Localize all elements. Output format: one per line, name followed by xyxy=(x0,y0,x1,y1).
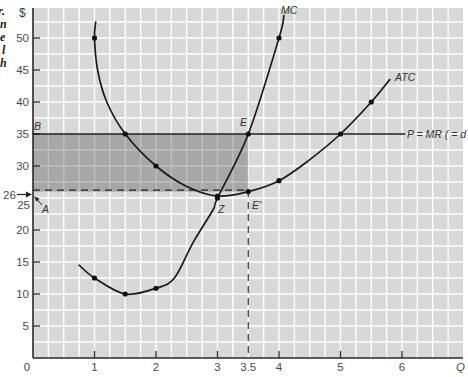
y-tick-label: 10 xyxy=(16,288,29,300)
mc-curve-point xyxy=(276,35,281,40)
atc-curve-point xyxy=(92,35,97,40)
atc-curve-label: ATC xyxy=(394,71,416,83)
price-line-label: P = MR ( = d xyxy=(407,128,467,140)
x-tick-label: 3.5 xyxy=(240,361,256,373)
caption-fragment: e xyxy=(0,30,6,44)
x-tick-label: 1 xyxy=(91,361,97,373)
y-axis-unit-label: $ xyxy=(19,6,26,20)
mc-curve-point xyxy=(92,275,97,280)
x-tick-label: 3 xyxy=(214,361,220,373)
atc-curve-point xyxy=(153,163,158,168)
x-tick-label: 6 xyxy=(399,361,405,373)
atc-curve-point xyxy=(246,189,251,194)
x-tick-label: 4 xyxy=(276,361,283,373)
y-tick-label: 50 xyxy=(16,32,29,44)
y-tick-label: 20 xyxy=(16,224,29,236)
point-e-prime-label: E' xyxy=(252,199,262,211)
caption-fragment: r. xyxy=(0,4,5,18)
clipped-caption-text: r. n e l h xyxy=(0,4,7,70)
caption-fragment: l xyxy=(2,43,6,57)
profit-rectangle xyxy=(33,134,248,192)
x-tick-label: 2 xyxy=(153,361,159,373)
profit-shaded-region xyxy=(33,134,248,192)
y-tick-label: 35 xyxy=(16,128,29,140)
y-tick-label: 30 xyxy=(16,160,29,172)
caption-fragment: n xyxy=(0,17,7,31)
price-26-arrow-icon xyxy=(17,192,32,198)
atc-curve-point xyxy=(215,193,220,198)
caption-fragment: h xyxy=(0,56,7,70)
x-tick-label: 5 xyxy=(337,361,343,373)
mc-curve-point xyxy=(123,291,128,296)
mc-curve-point xyxy=(153,286,158,291)
y-tick-label: 40 xyxy=(16,96,29,108)
y-tick-label: 45 xyxy=(16,64,29,76)
y-tick-label: 25 xyxy=(17,199,30,211)
cost-revenue-chart: r. n e l h 01233.54565101520253035404550… xyxy=(0,0,468,377)
atc-curve-point xyxy=(369,99,374,104)
y-tick-label: 15 xyxy=(16,256,29,268)
point-b-label: B xyxy=(34,120,41,132)
mc-curve-label: MC xyxy=(281,4,298,16)
x-tick-label: 0 xyxy=(24,361,30,373)
mc-curve-point xyxy=(246,131,251,136)
point-e-label: E xyxy=(240,116,248,128)
x-axis-label: Q xyxy=(456,361,465,373)
atc-curve-point xyxy=(338,131,343,136)
atc-curve-point xyxy=(276,178,281,183)
atc-curve-point xyxy=(123,131,128,136)
y-tick-label: 5 xyxy=(23,320,29,332)
point-z-label: Z xyxy=(217,203,225,215)
price-26-label: 26 xyxy=(3,189,16,201)
